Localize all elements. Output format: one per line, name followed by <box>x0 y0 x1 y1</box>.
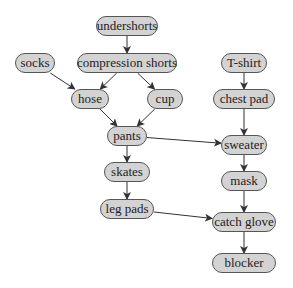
node-pants: pants <box>107 126 147 146</box>
node-blocker: blocker <box>212 253 276 273</box>
node-undershorts: undershorts <box>96 16 158 36</box>
node-skates: skates <box>104 162 150 182</box>
node-cup: cup <box>147 89 183 109</box>
node-catch-glove: catch glove <box>212 212 276 232</box>
edge-cup-to-pants <box>137 109 154 126</box>
node-t-shirt: T-shirt <box>221 53 267 73</box>
node-chest-pad: chest pad <box>213 89 275 109</box>
node-compression-shorts: compression shorts <box>77 53 177 73</box>
node-mask: mask <box>221 171 267 191</box>
edge-compression-shorts-to-hose <box>100 73 116 89</box>
edge-socks-to-hose <box>50 73 74 89</box>
edge-pants-to-sweater <box>147 138 221 144</box>
edge-compression-shorts-to-cup <box>138 73 155 89</box>
node-socks: socks <box>15 53 55 73</box>
diagram-canvas: undershortscompression shortssockshosecu… <box>0 0 293 288</box>
edge-leg-pads-to-catch-glove <box>154 212 212 218</box>
node-leg-pads: leg pads <box>100 199 154 219</box>
node-hose: hose <box>71 89 109 109</box>
node-sweater: sweater <box>221 135 267 155</box>
edge-hose-to-pants <box>100 109 117 126</box>
